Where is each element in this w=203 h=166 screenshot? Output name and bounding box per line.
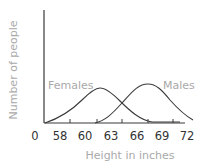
height-distribution-chart: 0 58 60 63 66 69 72 Females Males Number…	[0, 0, 203, 166]
x-tick-labels: 0 58 60 63 66 69 72	[31, 129, 194, 143]
tick-label-72: 72	[180, 129, 195, 143]
males-label: Males	[163, 79, 195, 92]
females-curve	[45, 88, 180, 123]
tick-label-60: 60	[78, 129, 93, 143]
tick-label-69: 69	[155, 129, 170, 143]
tick-label-66: 66	[130, 129, 145, 143]
tick-label-58: 58	[53, 129, 68, 143]
females-label: Females	[48, 79, 94, 92]
x-axis-title: Height in inches	[86, 149, 175, 162]
y-axis-title: Number of people	[7, 20, 20, 119]
tick-label-63: 63	[104, 129, 119, 143]
tick-label-0: 0	[31, 129, 38, 143]
